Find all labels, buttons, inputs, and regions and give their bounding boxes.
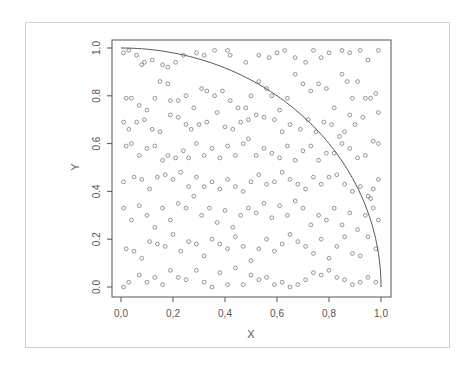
data-point (169, 99, 173, 103)
data-point (353, 123, 357, 127)
data-point (299, 127, 303, 131)
data-point (377, 111, 381, 115)
data-point (366, 235, 370, 239)
data-point (377, 218, 381, 222)
data-point (163, 173, 167, 177)
data-point (171, 178, 175, 182)
data-point (351, 96, 355, 100)
quarter-circle-curve (121, 48, 381, 287)
data-point (153, 144, 157, 148)
data-point (301, 82, 305, 86)
data-point (226, 283, 230, 287)
data-point (288, 285, 292, 289)
data-point (156, 242, 160, 246)
data-point (176, 276, 180, 280)
data-point (249, 180, 253, 184)
data-point (236, 106, 240, 110)
data-point (174, 60, 178, 64)
data-point (239, 213, 243, 217)
data-point (327, 268, 331, 272)
data-point (265, 182, 269, 186)
data-point (231, 225, 235, 229)
figure-container: 0,00,20,40,60,81,0 0.00.20.40.60.81.0 X … (25, 22, 450, 348)
data-point (364, 213, 368, 217)
x-tick-label: 1,0 (374, 308, 388, 319)
data-point (257, 173, 261, 177)
data-point (249, 94, 253, 98)
data-point (124, 144, 128, 148)
data-point (278, 204, 282, 208)
data-point (371, 187, 375, 191)
data-point (148, 240, 152, 244)
data-point (273, 118, 277, 122)
data-point (312, 175, 316, 179)
data-point (187, 185, 191, 189)
data-point (135, 120, 139, 124)
data-point (296, 182, 300, 186)
data-point (140, 178, 144, 182)
data-point (319, 237, 323, 241)
data-point (241, 283, 245, 287)
data-point (262, 147, 266, 151)
data-point (218, 187, 222, 191)
x-tick-label: 0,2 (166, 308, 180, 319)
data-point (213, 94, 217, 98)
data-point (143, 118, 147, 122)
data-point (210, 285, 214, 289)
data-point (145, 213, 149, 217)
data-point (202, 154, 206, 158)
data-point (205, 120, 209, 124)
data-point (169, 218, 173, 222)
data-point (335, 245, 339, 249)
data-point (304, 60, 308, 64)
data-point (322, 120, 326, 124)
data-point (275, 51, 279, 55)
data-point (192, 106, 196, 110)
data-point (127, 280, 131, 284)
data-point (358, 254, 362, 258)
data-point (153, 96, 157, 100)
data-point (127, 127, 131, 131)
data-point (200, 87, 204, 91)
x-axis-label: X (247, 328, 255, 340)
data-point (205, 89, 209, 93)
data-point (231, 127, 235, 131)
data-point (254, 211, 258, 215)
data-point (340, 72, 344, 76)
data-point (319, 273, 323, 277)
data-point (153, 225, 157, 229)
data-point (241, 245, 245, 249)
data-point (364, 96, 368, 100)
data-point (161, 63, 165, 67)
data-point (351, 252, 355, 256)
data-point (327, 175, 331, 179)
data-point (234, 185, 238, 189)
data-point (202, 185, 206, 189)
data-point (296, 240, 300, 244)
data-point (371, 139, 375, 143)
data-point (343, 278, 347, 282)
data-point (338, 135, 342, 139)
data-point (187, 240, 191, 244)
data-point (176, 202, 180, 206)
data-point (293, 158, 297, 162)
data-point (278, 156, 282, 160)
data-point (228, 99, 232, 103)
data-point (195, 242, 199, 246)
data-point (309, 144, 313, 148)
data-point (234, 154, 238, 158)
data-point (351, 283, 355, 287)
y-tick-label: 0.6 (91, 136, 102, 150)
data-point (371, 206, 375, 210)
data-point (356, 156, 360, 160)
data-point (319, 182, 323, 186)
data-point (257, 53, 261, 57)
data-point (343, 182, 347, 186)
data-point (122, 51, 126, 55)
data-point (195, 51, 199, 55)
data-point (377, 142, 381, 146)
data-point (234, 266, 238, 270)
data-point (348, 147, 352, 151)
data-point (140, 256, 144, 260)
data-point (312, 271, 316, 275)
